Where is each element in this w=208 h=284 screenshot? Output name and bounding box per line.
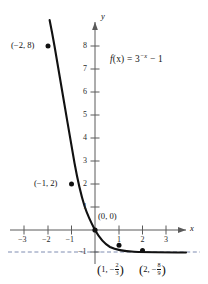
- equation-exponent: −x: [140, 52, 148, 59]
- x-tick-label-2: 2: [141, 236, 145, 244]
- right-paren: ): [120, 262, 124, 277]
- y-tick-label-6: 6: [83, 88, 87, 96]
- point-label-2-neg-eight-ninths: (2, −89): [139, 262, 166, 276]
- y-tick-label-3: 3: [83, 157, 87, 165]
- x-tick-label-neg2: −2: [42, 236, 51, 244]
- equation-label: f(x) = 3−x − 1: [110, 53, 163, 65]
- equation-variable: (x): [113, 54, 125, 64]
- y-axis-arrow: [92, 22, 98, 30]
- point-label-1-neg-two-thirds: (1, −23): [97, 262, 124, 276]
- y-axis-label: y: [101, 12, 105, 21]
- frac-label-1-sign: −: [110, 264, 115, 274]
- y-tick-label-neg1: −1: [78, 248, 87, 256]
- x-tick-label-3: 3: [164, 236, 168, 244]
- x-axis-arrow: [178, 227, 186, 233]
- y-tick-label-5: 5: [83, 111, 87, 119]
- equation-minus-one: − 1: [150, 54, 163, 64]
- equation-equals: =: [127, 54, 133, 64]
- y-tick-label-4: 4: [83, 134, 87, 142]
- y-tick-label-8: 8: [83, 42, 87, 50]
- y-tick-label-2: 2: [83, 180, 87, 188]
- exponential-function-graph: y x −3 −2 −1 1 2 3 8 7 6 5 4 3 2 1 −1 (−…: [0, 0, 208, 284]
- frac-label-1-x: 1,: [101, 264, 107, 274]
- data-point-neg1-2: [69, 182, 74, 187]
- x-axis-label: x: [190, 224, 194, 233]
- y-tick-label-1: 1: [83, 203, 87, 211]
- x-tick-label-1: 1: [117, 236, 121, 244]
- frac-label-2-sign: −: [152, 264, 157, 274]
- x-tick-label-neg1: −1: [66, 236, 75, 244]
- data-point-neg2-8: [46, 44, 51, 49]
- point-label-0-0: (0, 0): [98, 212, 117, 221]
- data-point-2-neg8over9: [140, 248, 145, 253]
- point-label-neg1-2: (−1, 2): [34, 179, 57, 188]
- x-tick-label-neg3: −3: [18, 236, 27, 244]
- point-label-neg2-8: (−2, 8): [11, 41, 34, 50]
- data-point-0-0: [92, 227, 97, 232]
- right-paren: ): [162, 262, 166, 277]
- y-tick-label-7: 7: [83, 65, 87, 73]
- frac-label-2-x: 2,: [143, 264, 149, 274]
